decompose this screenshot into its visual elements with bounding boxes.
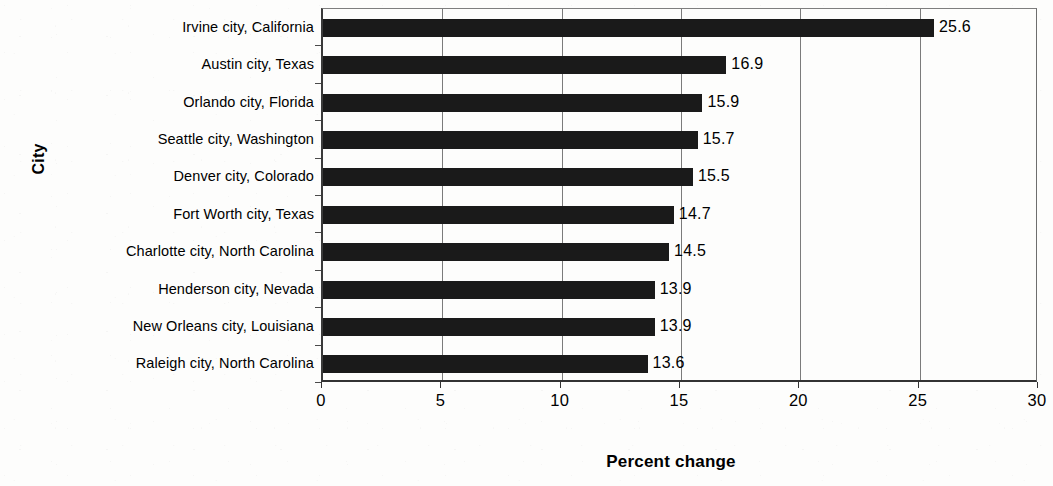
x-axis-tick — [440, 382, 441, 388]
category-label: Raleigh city, North Carolina — [40, 356, 314, 371]
x-axis-tick — [1037, 382, 1038, 388]
bar — [323, 243, 669, 261]
bar-value-label: 16.9 — [731, 56, 763, 72]
bar — [323, 355, 648, 373]
x-axis-tick-label: 20 — [789, 392, 808, 409]
category-label: Denver city, Colorado — [40, 169, 314, 184]
x-axis-tick-label: 30 — [1028, 392, 1047, 409]
y-axis-tick — [315, 270, 321, 271]
chart-page: City Irvine city, CaliforniaAustin city,… — [0, 0, 1053, 486]
x-axis-tick — [321, 382, 322, 388]
x-axis-tick-label: 15 — [670, 392, 689, 409]
bar-value-label: 15.9 — [707, 94, 739, 110]
bar — [323, 168, 693, 186]
category-label: Fort Worth city, Texas — [40, 207, 314, 222]
category-label: Seattle city, Washington — [40, 132, 314, 147]
bar-value-label: 25.6 — [939, 19, 971, 35]
x-axis-title: Percent change — [321, 452, 1021, 472]
bar — [323, 318, 655, 336]
bar-value-label: 13.9 — [660, 281, 692, 297]
x-axis-tick-label: 10 — [550, 392, 569, 409]
y-axis-tick — [315, 307, 321, 308]
x-axis-tick-label: 25 — [908, 392, 927, 409]
y-axis-tick — [315, 120, 321, 121]
category-label: New Orleans city, Louisiana — [40, 319, 314, 334]
bar-value-label: 15.5 — [698, 168, 730, 184]
gridline — [800, 9, 801, 380]
y-axis-tick — [315, 45, 321, 46]
bar — [323, 94, 702, 112]
gridline — [920, 9, 921, 380]
category-label: Austin city, Texas — [40, 57, 314, 72]
bar — [323, 56, 726, 74]
bar-value-label: 14.5 — [674, 243, 706, 259]
bar-value-label: 14.7 — [679, 206, 711, 222]
bar-value-label: 13.6 — [653, 355, 685, 371]
y-axis-tick — [315, 195, 321, 196]
category-label: Orlando city, Florida — [40, 95, 314, 110]
x-axis-tick — [798, 382, 799, 388]
x-axis-tick — [679, 382, 680, 388]
category-label: Charlotte city, North Carolina — [40, 244, 314, 259]
category-label: Irvine city, California — [40, 20, 314, 35]
x-axis-tick — [918, 382, 919, 388]
bar-value-label: 15.7 — [703, 131, 735, 147]
bar — [323, 19, 934, 37]
x-axis-tick-label: 0 — [316, 392, 325, 409]
category-axis-labels: Irvine city, CaliforniaAustin city, Texa… — [40, 8, 314, 382]
y-axis-tick — [315, 232, 321, 233]
y-axis-tick — [315, 83, 321, 84]
y-axis-tick — [315, 345, 321, 346]
x-axis-tick-label: 5 — [436, 392, 445, 409]
category-label: Henderson city, Nevada — [40, 282, 314, 297]
y-axis-tick — [315, 158, 321, 159]
bar — [323, 281, 655, 299]
x-axis-tick — [560, 382, 561, 388]
bar — [323, 131, 698, 149]
bar-value-label: 13.9 — [660, 318, 692, 334]
bar — [323, 206, 674, 224]
